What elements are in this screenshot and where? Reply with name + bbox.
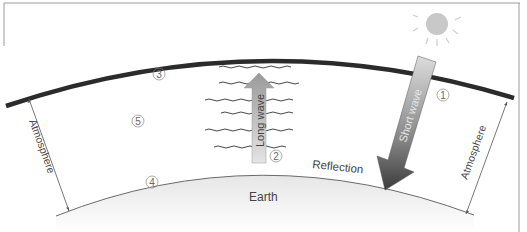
svg-text:4: 4: [149, 177, 155, 188]
marker-4: 4: [146, 176, 158, 188]
greenhouse-diagram: Atmosphere Atmosphere Long wave: [0, 0, 527, 232]
svg-text:3: 3: [156, 69, 162, 80]
marker-1: 1: [437, 89, 449, 101]
svg-text:2: 2: [273, 151, 279, 162]
svg-text:5: 5: [135, 116, 141, 127]
atmosphere-right-label: Atmosphere: [458, 123, 489, 180]
earth-label: Earth: [249, 190, 278, 204]
marker-3: 3: [153, 68, 165, 80]
reflection-label: Reflection: [312, 158, 364, 175]
marker-2: 2: [270, 150, 282, 162]
long-wave-label: Long wave: [254, 94, 266, 147]
atmosphere-left-label: Atmosphere: [27, 118, 58, 175]
svg-text:1: 1: [440, 90, 446, 101]
sun-icon: [413, 13, 461, 46]
marker-5: 5: [132, 115, 144, 127]
